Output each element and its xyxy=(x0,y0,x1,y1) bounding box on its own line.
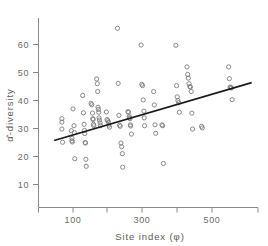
data-point xyxy=(142,109,146,113)
chart-canvas: 60 50 40 30 20 10 α̂-diversity 100 xyxy=(0,0,268,246)
data-point xyxy=(95,77,99,81)
scatter-points xyxy=(60,26,234,169)
data-point xyxy=(141,98,145,102)
data-point xyxy=(230,98,234,102)
data-point xyxy=(90,103,94,107)
data-point xyxy=(81,111,85,115)
y-tick-label-40: 40 xyxy=(18,96,29,106)
data-point xyxy=(177,110,181,114)
data-point xyxy=(154,131,158,135)
data-point xyxy=(116,81,120,85)
data-point xyxy=(71,107,75,111)
data-point xyxy=(81,93,85,97)
data-point xyxy=(142,116,146,120)
data-point xyxy=(104,110,108,114)
x-axis-title: Site index (φ) xyxy=(115,231,184,242)
data-point xyxy=(140,84,144,88)
data-point xyxy=(90,111,94,115)
data-point xyxy=(72,124,76,128)
y-tick-label-30: 30 xyxy=(18,124,29,134)
data-point xyxy=(174,43,178,47)
data-point xyxy=(84,157,88,161)
data-point xyxy=(153,123,157,127)
data-point xyxy=(117,113,121,117)
data-point xyxy=(121,165,125,169)
y-tick-label-50: 50 xyxy=(18,68,29,78)
data-point xyxy=(73,157,77,161)
data-point xyxy=(142,124,146,128)
data-point xyxy=(185,65,189,69)
x-tick-label-300: 300 xyxy=(134,215,151,225)
data-point xyxy=(161,161,165,165)
data-point xyxy=(174,84,178,88)
data-point xyxy=(60,140,64,144)
x-axis: 100 300 500 Site index (φ) xyxy=(39,208,259,243)
data-point xyxy=(227,77,231,81)
data-point xyxy=(120,152,124,156)
x-tick-label-500: 500 xyxy=(204,215,221,225)
data-point xyxy=(139,43,143,47)
data-point xyxy=(97,110,101,114)
data-point xyxy=(227,65,231,69)
data-point xyxy=(152,103,156,107)
data-point xyxy=(82,122,86,126)
data-point xyxy=(189,89,193,93)
regression-fit-line xyxy=(55,83,251,140)
data-point xyxy=(84,164,88,168)
x-tick-label-100: 100 xyxy=(65,215,82,225)
data-point xyxy=(129,132,133,136)
data-point xyxy=(60,127,64,131)
y-tick-label-60: 60 xyxy=(18,40,29,50)
x-axis-tick-labels: 100 300 500 xyxy=(65,215,221,225)
data-point xyxy=(96,89,100,93)
y-axis-tick-labels: 60 50 40 30 20 10 xyxy=(18,40,29,190)
data-point xyxy=(152,89,156,93)
x-axis-ticks xyxy=(39,208,259,213)
y-axis-ticks xyxy=(33,45,39,185)
y-tick-label-20: 20 xyxy=(18,152,29,162)
y-axis: 60 50 40 30 20 10 α̂-diversity xyxy=(4,18,39,207)
scatter-plot-figure: 60 50 40 30 20 10 α̂-diversity 100 xyxy=(0,0,268,246)
data-point xyxy=(190,111,194,115)
y-tick-label-10: 10 xyxy=(18,180,29,190)
data-point xyxy=(190,127,194,131)
data-point xyxy=(95,82,99,86)
data-point xyxy=(115,26,119,30)
y-axis-title: α̂-diversity xyxy=(4,88,15,141)
